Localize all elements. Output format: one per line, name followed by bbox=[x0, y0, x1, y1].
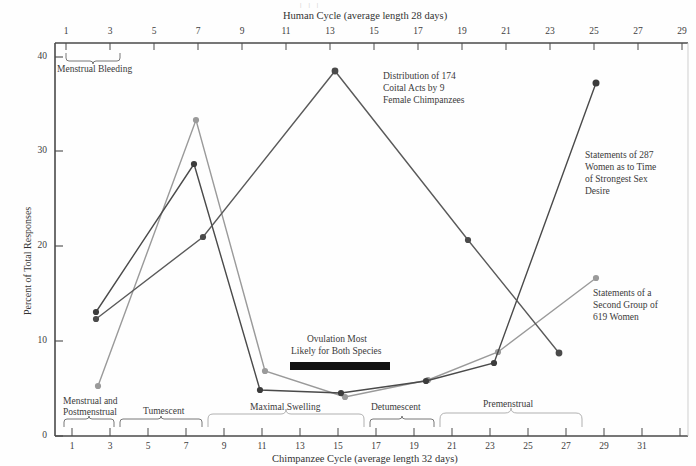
top-tick-23: 23 bbox=[543, 26, 557, 36]
top-axis bbox=[55, 43, 688, 50]
top-tick-11: 11 bbox=[279, 26, 293, 36]
figure-chart: | | | bbox=[0, 0, 696, 466]
top-tick-25: 25 bbox=[587, 26, 601, 36]
series-619-women bbox=[95, 117, 599, 400]
top-tick-3: 3 bbox=[103, 26, 117, 36]
top-tick-21: 21 bbox=[499, 26, 513, 36]
bottom-tick-7: 7 bbox=[179, 441, 193, 451]
annotation-619-line2: Second Group of bbox=[593, 300, 658, 312]
annotation-619-line3: 619 Women bbox=[593, 312, 639, 324]
annotation-287-line2: Women as to Time bbox=[585, 162, 656, 174]
top-tick-29: 29 bbox=[675, 26, 689, 36]
top-tick-13: 13 bbox=[323, 26, 337, 36]
top-tick-7: 7 bbox=[191, 26, 205, 36]
brace-label-tumescent: Tumescent bbox=[143, 406, 184, 417]
bottom-axis bbox=[55, 428, 688, 436]
bottom-tick-31: 31 bbox=[635, 441, 649, 451]
annotation-287-line4: Desire bbox=[585, 186, 610, 198]
bottom-tick-5: 5 bbox=[141, 441, 155, 451]
bottom-tick-17: 17 bbox=[369, 441, 383, 451]
annotation-chimp-line3: Female Chimpanzees bbox=[383, 95, 465, 107]
y-axis-title: Percent of Total Responses bbox=[22, 207, 33, 315]
annotation-ovulation-line2: Likely for Both Species bbox=[291, 346, 382, 358]
brace-label-menstrual-l1: Menstrual and bbox=[63, 396, 118, 407]
bottom-tick-25: 25 bbox=[521, 441, 535, 451]
brace-label-premenstrual: Premenstrual bbox=[483, 399, 533, 410]
y-tick-40: 40 bbox=[29, 51, 47, 61]
bottom-tick-9: 9 bbox=[217, 441, 231, 451]
top-tick-9: 9 bbox=[235, 26, 249, 36]
brace-label-menstrual-bleeding: Menstrual Bleeding bbox=[57, 64, 132, 75]
annotation-chimp-line1: Distribution of 174 bbox=[383, 71, 456, 83]
bottom-tick-1: 1 bbox=[65, 441, 79, 451]
bottom-tick-23: 23 bbox=[483, 441, 497, 451]
annotation-619-line1: Statements of a bbox=[593, 288, 652, 300]
annotation-287-line1: Statements of 287 bbox=[585, 150, 654, 162]
bottom-tick-13: 13 bbox=[293, 441, 307, 451]
top-tick-15: 15 bbox=[367, 26, 381, 36]
bottom-tick-21: 21 bbox=[445, 441, 459, 451]
top-tick-5: 5 bbox=[147, 26, 161, 36]
top-tick-1: 1 bbox=[59, 26, 73, 36]
annotation-chimp-line2: Coital Acts by 9 bbox=[383, 83, 445, 95]
brace-label-menstrual-l2: Postmenstrual bbox=[63, 407, 117, 418]
brace-menstrual-bleeding bbox=[66, 53, 120, 64]
bottom-tick-11: 11 bbox=[255, 441, 269, 451]
bottom-tick-3: 3 bbox=[103, 441, 117, 451]
brace-tumescent bbox=[120, 416, 202, 427]
top-tick-27: 27 bbox=[631, 26, 645, 36]
brace-label-maximal-swelling: Maximal Swelling bbox=[250, 402, 320, 413]
y-tick-0: 0 bbox=[29, 430, 47, 440]
top-tick-17: 17 bbox=[411, 26, 425, 36]
top-tick-19: 19 bbox=[455, 26, 469, 36]
bottom-tick-29: 29 bbox=[597, 441, 611, 451]
top-axis-title: Human Cycle (average length 28 days) bbox=[283, 10, 447, 21]
bottom-axis-title: Chimpanzee Cycle (average length 32 days… bbox=[272, 453, 458, 464]
ovulation-bar bbox=[290, 362, 390, 370]
bottom-tick-27: 27 bbox=[559, 441, 573, 451]
brace-detumescent bbox=[370, 416, 434, 427]
annotation-287-line3: of Strongest Sex bbox=[585, 174, 648, 186]
y-axis bbox=[55, 43, 63, 436]
brace-premenstrual bbox=[440, 408, 582, 427]
bottom-tick-19: 19 bbox=[407, 441, 421, 451]
bottom-tick-15: 15 bbox=[331, 441, 345, 451]
y-tick-30: 30 bbox=[29, 145, 47, 155]
brace-label-detumescent: Detumescent bbox=[371, 402, 421, 413]
series-chimpanzee-coital-acts bbox=[93, 68, 562, 357]
y-tick-10: 10 bbox=[29, 335, 47, 345]
annotation-ovulation-line1: Ovulation Most bbox=[307, 334, 367, 346]
